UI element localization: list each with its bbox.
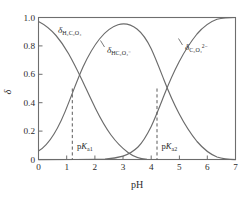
x-tick-label-7: 7 xyxy=(233,162,238,172)
svg-text:δHC₂O₄⁻: δHC₂O₄⁻ xyxy=(107,45,131,56)
y-tick-label-0p4: 0.4 xyxy=(24,98,36,108)
svg-text:pKa1: pKa1 xyxy=(77,141,93,152)
y-tick-label-0p6: 0.6 xyxy=(24,69,36,79)
hc2o4-leader-line xyxy=(101,41,105,48)
x-tick-label-5: 5 xyxy=(177,162,182,172)
y-tick-label-1p0: 1.0 xyxy=(24,13,36,23)
x-tick-label-0: 0 xyxy=(36,162,41,172)
y-tick-labels: 0 0.2 0.4 0.6 0.8 1.0 xyxy=(24,13,36,165)
x-tick-label-3: 3 xyxy=(121,162,126,172)
hc2o4-subscript: HC₂O₄⁻ xyxy=(111,50,131,56)
pka2-subscript: a2 xyxy=(172,146,178,152)
h2c2o4-subscript: H₂C₂O₄ xyxy=(62,30,81,36)
x-tick-label-1: 1 xyxy=(64,162,69,172)
y-tick-label-0p2: 0.2 xyxy=(24,126,36,136)
series-label-h2c2o4: δH₂C₂O₄ xyxy=(58,25,81,36)
c2o4-leader-line xyxy=(179,39,183,46)
plot-frame xyxy=(39,18,236,160)
curves-group xyxy=(39,18,236,160)
x-axis-title: pH xyxy=(131,179,143,190)
svg-text:pKa2: pKa2 xyxy=(162,141,178,152)
c2o4-superscript: 2− xyxy=(202,43,208,49)
x-tick-labels: 0 1 2 3 4 5 6 7 xyxy=(36,162,238,172)
pka1-label: pKa1 xyxy=(77,141,93,152)
series-label-hc2o4: δHC₂O₄⁻ xyxy=(101,41,132,57)
x-tick-label-2: 2 xyxy=(93,162,98,172)
pka2-label: pKa2 xyxy=(162,141,178,152)
svg-text:δC₂O₄2−: δC₂O₄2− xyxy=(185,42,208,53)
y-tick-label-0: 0 xyxy=(30,155,35,165)
y-axis-title: δ xyxy=(2,88,13,94)
c2o4-subscript: C₂O₄ xyxy=(189,47,202,53)
series-label-c2o4: δC₂O₄2− xyxy=(179,39,208,54)
chart-figure: 0 1 2 3 4 5 6 7 0 0.2 0.4 0.6 0.8 1.0 pH… xyxy=(0,0,252,198)
y-axis-ticks xyxy=(39,18,43,160)
y-tick-label-0p8: 0.8 xyxy=(24,41,36,51)
x-tick-label-4: 4 xyxy=(149,162,154,172)
svg-text:δH₂C₂O₄: δH₂C₂O₄ xyxy=(58,25,81,36)
speciation-diagram: 0 1 2 3 4 5 6 7 0 0.2 0.4 0.6 0.8 1.0 pH… xyxy=(0,0,252,198)
x-tick-label-6: 6 xyxy=(205,162,210,172)
pka1-subscript: a1 xyxy=(87,146,93,152)
curve-c2o4 xyxy=(39,18,236,160)
